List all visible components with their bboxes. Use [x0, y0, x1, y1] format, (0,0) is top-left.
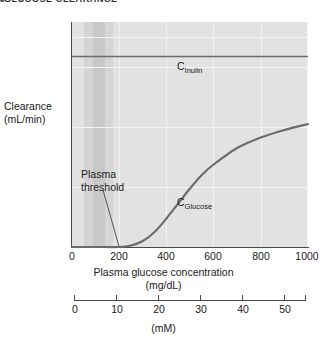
secondary-x-tick-50: 50 [279, 303, 291, 315]
gridline-x-200 [119, 22, 120, 247]
plasma-threshold-annotation: Plasma threshold [81, 168, 124, 193]
x-tick-0: 0 [69, 250, 75, 262]
secondary-x-tick-10: 10 [111, 303, 123, 315]
gridline-x-600 [213, 22, 214, 247]
plot-area [72, 22, 308, 247]
shaded-band-normal-range-low [84, 22, 93, 247]
x-axis-line [71, 247, 309, 248]
x-tick-800: 800 [252, 250, 270, 262]
y-axis-line [71, 22, 72, 248]
shaded-band-normal-range-core [93, 22, 105, 247]
shaded-band-normal-range-high [105, 22, 113, 247]
x-tick-400: 400 [157, 250, 175, 262]
x-tick-1000: 1000 [295, 250, 318, 262]
plasma-threshold-line2: threshold [81, 181, 124, 194]
secondary-tick-30 [200, 295, 201, 300]
inulin-label-subscript: Inulin [185, 66, 203, 75]
gridline-x-400 [166, 22, 167, 247]
secondary-tick-50 [284, 295, 285, 300]
gridline-y-80 [72, 127, 308, 128]
y-axis-ticks: 140 120 80 40 0 [0, 0, 66, 344]
x-axis-title-name: Plasma glucose concentration [93, 266, 233, 278]
secondary-x-axis-title: (mM) [0, 322, 327, 334]
gridline-x-800 [261, 22, 262, 247]
gridline-x-1000 [307, 22, 308, 247]
secondary-x-tick-40: 40 [237, 303, 249, 315]
y-axis-title: Clearance (mL/min) [4, 100, 52, 125]
plasma-threshold-line1: Plasma [81, 168, 116, 180]
x-tick-600: 600 [204, 250, 222, 262]
glucose-curve-label: CGlucose [177, 196, 212, 211]
gridline-y-140 [72, 37, 308, 38]
inulin-curve-label: CInulin [177, 60, 203, 75]
x-axis-title-units: (mg/dL) [0, 279, 327, 292]
secondary-axis-cap-left [74, 295, 75, 300]
inulin-label-text: C [177, 60, 185, 72]
y-axis-title-name: Clearance [4, 100, 52, 112]
secondary-tick-10 [116, 295, 117, 300]
y-axis-title-units: (mL/min) [4, 113, 45, 125]
secondary-tick-40 [242, 295, 243, 300]
x-tick-200: 200 [110, 250, 128, 262]
secondary-axis-cap-right [305, 295, 306, 300]
glucose-label-subscript: Glucose [185, 202, 213, 211]
secondary-x-tick-20: 20 [153, 303, 165, 315]
x-axis-title: Plasma glucose concentration (mg/dL) [0, 266, 327, 291]
secondary-x-axis-line [74, 300, 306, 301]
chart-figure: ■ GLUCOSE CLEARANCE 140 120 80 40 0 Clea… [0, 0, 327, 344]
secondary-tick-20 [158, 295, 159, 300]
secondary-x-tick-30: 30 [195, 303, 207, 315]
secondary-x-tick-0: 0 [72, 303, 78, 315]
glucose-label-text: C [177, 196, 185, 208]
